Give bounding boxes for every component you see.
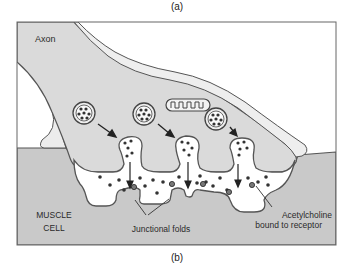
acetylcholine-label-line1: Acetylcholine	[282, 210, 332, 220]
muscle-cell-label-line1: MUSCLE	[36, 210, 72, 220]
junctional-folds-label: Junctional folds	[132, 224, 191, 234]
mitochondrion	[166, 99, 210, 111]
synaptic-vesicle-2	[133, 103, 155, 125]
synaptic-vesicle-3	[205, 108, 227, 130]
muscle-cell-label-line2: CELL	[43, 223, 65, 233]
acetylcholine-label-line2: bound to receptor	[255, 220, 322, 230]
synaptic-vesicle-1	[73, 102, 95, 124]
panel-label-b: (b)	[0, 252, 354, 263]
axon-label: Axon	[35, 34, 56, 44]
neuromuscular-junction-diagram: Axon MUSCLE CELL Junctional folds Acetyl…	[0, 0, 354, 268]
